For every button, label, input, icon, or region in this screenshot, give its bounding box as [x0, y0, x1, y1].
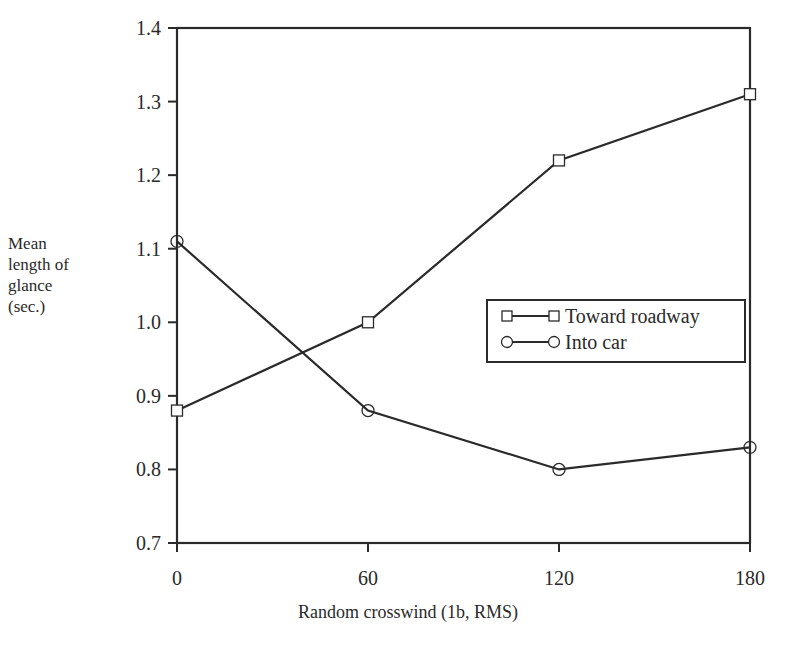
square-marker-icon — [502, 311, 512, 321]
x-axis-title: Random crosswind (1b, RMS) — [298, 602, 518, 623]
square-marker-icon — [554, 155, 565, 166]
legend: Toward roadway Into car — [487, 300, 745, 362]
legend-label: Into car — [565, 331, 627, 353]
series-line — [177, 94, 750, 410]
line-chart: 0.70.80.91.01.11.21.31.4 060120180 Rando… — [0, 0, 790, 646]
x-tick-label: 180 — [735, 567, 765, 589]
series-layer — [171, 89, 756, 476]
y-tick-label: 0.8 — [136, 458, 161, 480]
y-tick-label: 0.9 — [136, 385, 161, 407]
square-marker-icon — [363, 317, 374, 328]
y-tick-label: 1.2 — [136, 164, 161, 186]
circle-marker-icon — [502, 337, 513, 348]
series-toward-roadway — [172, 89, 756, 416]
y-tick-label: 1.3 — [136, 91, 161, 113]
square-marker-icon — [172, 405, 183, 416]
y-tick-label: 1.0 — [136, 311, 161, 333]
x-tick-label: 120 — [544, 567, 574, 589]
square-marker-icon — [745, 89, 756, 100]
x-axis: 060120180 — [172, 543, 765, 589]
y-tick-label: 0.7 — [136, 532, 161, 554]
circle-marker-icon — [549, 337, 560, 348]
legend-label: Toward roadway — [565, 305, 700, 328]
x-tick-label: 60 — [358, 567, 378, 589]
y-axis: 0.70.80.91.01.11.21.31.4 — [136, 17, 177, 554]
plot-area-border — [177, 28, 750, 543]
y-tick-label: 1.1 — [136, 238, 161, 260]
y-tick-label: 1.4 — [136, 17, 161, 39]
square-marker-icon — [549, 311, 559, 321]
plot-frame — [177, 28, 750, 543]
x-tick-label: 0 — [172, 567, 182, 589]
